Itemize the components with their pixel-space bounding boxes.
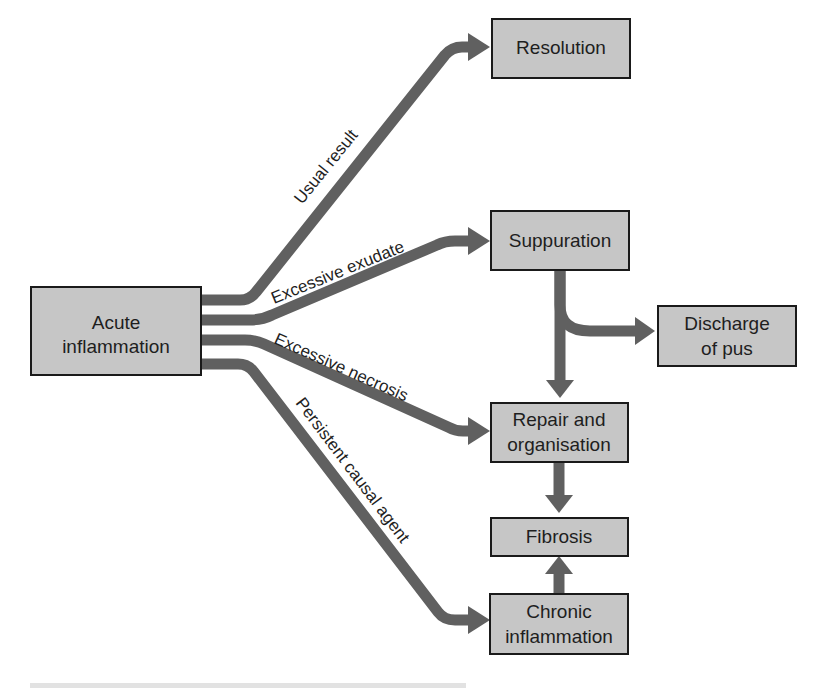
edge-label-excessive-necrosis: Excessive necrosis [271, 329, 411, 405]
node-discharge-of-pus-line-1: Discharge [684, 313, 770, 334]
node-resolution-label: Resolution [516, 37, 606, 58]
edge-suppuration-to-repair [546, 270, 574, 398]
edge-excessive-necrosis: Excessive necrosis [202, 329, 490, 445]
edge-excessive-exudate: Excessive exudate [202, 227, 490, 320]
edge-suppuration-to-repair-arrowhead [546, 380, 574, 398]
node-discharge-of-pus-line-2: of pus [701, 338, 753, 359]
node-acute-inflammation: Acute inflammation [31, 287, 201, 375]
edge-persistent-causal-agent: Persistent causal agent [202, 364, 490, 634]
edge-persistent-causal-agent-path [202, 364, 470, 620]
node-repair-and-organisation: Repair and organisation [491, 403, 628, 462]
node-fibrosis: Fibrosis [491, 518, 628, 556]
edge-repair-to-fibrosis-arrowhead [545, 495, 573, 513]
edge-suppuration-to-discharge [560, 270, 655, 345]
node-discharge-of-pus: Discharge of pus [658, 306, 796, 366]
edge-excessive-exudate-arrowhead [468, 227, 490, 255]
node-acute-inflammation-line-1: Acute [92, 312, 141, 333]
node-suppuration-label: Suppuration [509, 230, 611, 251]
node-acute-inflammation-line-2: inflammation [62, 336, 170, 357]
node-fibrosis-label: Fibrosis [526, 526, 593, 547]
node-resolution: Resolution [492, 19, 630, 78]
edge-chronic-to-fibrosis [545, 556, 573, 594]
edge-repair-to-fibrosis [545, 462, 573, 513]
edge-excessive-necrosis-arrowhead [468, 417, 490, 445]
node-repair-and-organisation-line-2: organisation [507, 434, 611, 455]
edge-chronic-to-fibrosis-arrowhead [545, 556, 573, 574]
edge-label-persistent-causal-agent: Persistent causal agent [292, 394, 414, 547]
footer-divider [30, 683, 466, 688]
node-chronic-inflammation-line-1: Chronic [526, 601, 591, 622]
node-repair-and-organisation-line-1: Repair and [513, 409, 606, 430]
edge-suppuration-to-discharge-path [560, 270, 637, 331]
edge-persistent-causal-agent-arrowhead [468, 606, 490, 634]
node-chronic-inflammation: Chronic inflammation [490, 594, 628, 654]
edge-suppuration-to-discharge-arrowhead [635, 317, 655, 345]
node-chronic-inflammation-line-2: inflammation [505, 626, 613, 647]
edge-usual-result-arrowhead [468, 33, 490, 61]
inflammation-outcomes-diagram: Usual result Excessive exudate Excessive… [0, 0, 820, 691]
node-suppuration: Suppuration [491, 211, 629, 270]
